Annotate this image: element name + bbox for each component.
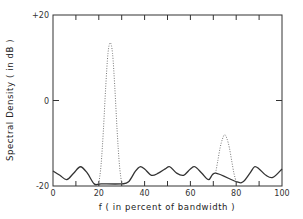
series-line xyxy=(99,43,122,184)
y-tick-label: 0 xyxy=(44,97,49,106)
y-tick-label: +20 xyxy=(32,11,49,20)
x-axis-label: f ( in percent of bandwidth ) xyxy=(99,202,236,212)
x-tick-label: 100 xyxy=(274,189,289,198)
x-tick-label: 20 xyxy=(94,189,104,198)
y-tick-label: -20 xyxy=(36,182,49,191)
y-axis-ticks: -200+20 xyxy=(32,11,282,191)
x-tick-label: 40 xyxy=(140,189,150,198)
series-layer xyxy=(53,43,282,185)
y-axis-label: Spectral Density ( in dB ) xyxy=(5,39,15,161)
x-tick-label: 60 xyxy=(185,189,195,198)
x-tick-label: 0 xyxy=(50,189,55,198)
spectral-density-chart: 020406080100 -200+20 f ( in percent of b… xyxy=(0,0,303,219)
x-axis-ticks: 020406080100 xyxy=(50,15,289,198)
x-tick-label: 80 xyxy=(231,189,241,198)
plot-frame xyxy=(53,15,282,186)
